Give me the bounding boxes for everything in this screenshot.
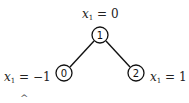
partial-hat-glyph: ^: [20, 92, 28, 103]
node-1: 1: [92, 27, 108, 43]
node-2-label: 2: [133, 68, 139, 79]
annotation-node-2: x1 = 1: [150, 70, 187, 85]
node-2: 2: [128, 65, 144, 81]
annotation-node-1: x1 = 0: [82, 7, 119, 22]
node-0-label: 0: [61, 68, 67, 79]
node-1-label: 1: [97, 30, 103, 41]
tree-diagram: 1 0 2 x1 = 0 x1 = −1 x1 = 1 ^: [0, 0, 189, 103]
edge-1-0: [70, 41, 94, 67]
annotation-node-0: x1 = −1: [4, 70, 51, 85]
edge-1-2: [106, 41, 130, 67]
node-0: 0: [56, 65, 72, 81]
